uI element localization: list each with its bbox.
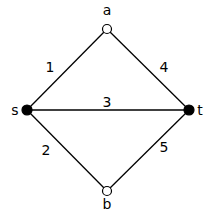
edge-b-t (107, 110, 189, 191)
edge-label: 1 (46, 59, 55, 75)
edge-s-a (27, 29, 107, 110)
edge-label: 3 (103, 94, 112, 110)
edges: 12345 (27, 29, 189, 191)
edge-s-b (27, 110, 107, 191)
node-s (22, 105, 32, 115)
node-label: a (103, 2, 112, 18)
edge-label: 5 (160, 139, 169, 155)
node-b (103, 187, 112, 196)
edge-a-t (107, 29, 189, 110)
edge-label: 2 (42, 142, 51, 158)
edge-label: 4 (160, 59, 169, 75)
node-label: b (103, 196, 112, 212)
node-t (184, 105, 194, 115)
graph-diagram: 12345 astb (0, 0, 213, 220)
node-label: t (197, 102, 203, 118)
node-label: s (11, 102, 18, 118)
node-a (103, 25, 112, 34)
